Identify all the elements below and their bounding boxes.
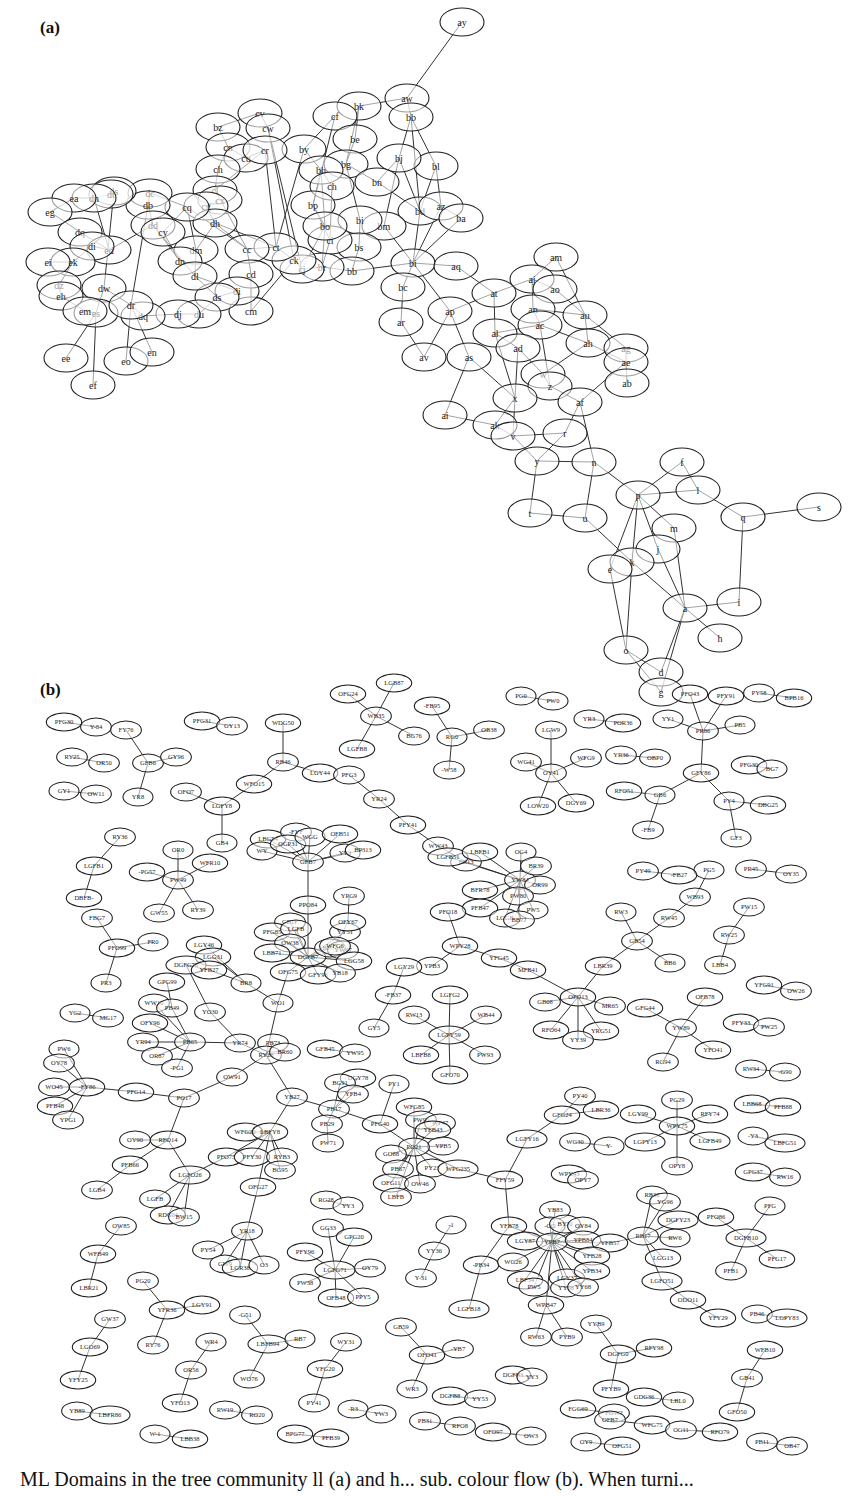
node-label: dj bbox=[174, 309, 182, 320]
graph-node: y bbox=[515, 447, 559, 475]
graph-node: PFG40 bbox=[362, 1115, 397, 1133]
graph-node: YW95 bbox=[340, 1044, 371, 1062]
node-label: y bbox=[535, 456, 540, 467]
node-label: PW49 bbox=[170, 876, 186, 883]
graph-node: PY41 bbox=[299, 1394, 330, 1412]
node-label: BPB16 bbox=[785, 694, 805, 701]
node-label: h bbox=[718, 633, 723, 644]
node-label: BG91 bbox=[332, 1079, 348, 1086]
graph-node: -FB9 bbox=[633, 821, 664, 839]
node-label: BG95 bbox=[272, 1166, 288, 1173]
graph-node: YFB4 bbox=[338, 1085, 369, 1103]
node-label: PR3 bbox=[100, 979, 111, 986]
node-label: PB11 bbox=[755, 1438, 769, 1445]
node-label: OPY8 bbox=[669, 1162, 685, 1169]
node-label: GG33 bbox=[320, 1224, 336, 1231]
node-label: WFO15 bbox=[244, 780, 265, 787]
node-label: PW25 bbox=[761, 1023, 777, 1030]
node-label: PFG31 bbox=[193, 717, 211, 724]
node-label: DGFG0 bbox=[608, 1350, 629, 1357]
node-label: LBFR86 bbox=[99, 1411, 123, 1418]
graph-node: LGFB bbox=[140, 1190, 171, 1208]
node-label: RFO64 bbox=[541, 1026, 561, 1033]
node-label: LGFB bbox=[147, 1195, 164, 1202]
graph-node: OFO97 bbox=[475, 1423, 510, 1441]
graph-node: WB93 bbox=[680, 888, 711, 906]
graph-node: WFB10 bbox=[747, 1341, 782, 1359]
node-label: YY3 bbox=[526, 1373, 539, 1380]
node-label: PFB66 bbox=[121, 1161, 140, 1168]
node-label: FGG69 bbox=[568, 1405, 588, 1412]
graph-node: OG11 bbox=[666, 1421, 697, 1439]
node-label: YFG91 bbox=[754, 981, 774, 988]
graph-node: p bbox=[616, 481, 660, 509]
node-label: PY49 bbox=[636, 867, 651, 874]
node-label: LOW20 bbox=[527, 802, 548, 809]
node-label: YFB57 bbox=[600, 1239, 620, 1246]
node-label: OW46 bbox=[411, 1180, 429, 1187]
node-label: LGPY59 bbox=[437, 1031, 460, 1038]
node-label: YR74 bbox=[232, 1039, 248, 1046]
graph-node: PG20 bbox=[128, 1272, 159, 1290]
graph-node: OPY7 bbox=[568, 1171, 599, 1189]
node-label: OFG75 bbox=[278, 968, 298, 975]
node-label: au bbox=[580, 310, 589, 321]
graph-node: PG0 bbox=[506, 687, 536, 705]
node-label: BG76 bbox=[406, 732, 422, 739]
node-label: RW25 bbox=[721, 931, 738, 938]
graph-node: PPY5 bbox=[348, 1288, 379, 1306]
graph-node: YYB9 bbox=[581, 1315, 612, 1333]
graph-node: o bbox=[604, 636, 648, 664]
graph-node: BW15 bbox=[169, 1208, 200, 1226]
node-label: WO45 bbox=[45, 1083, 62, 1090]
node-label: -FB37 bbox=[385, 991, 402, 998]
graph-node: ad bbox=[496, 334, 540, 362]
graph-node: LGW9 bbox=[536, 721, 567, 739]
graph-node: PY1 bbox=[379, 1075, 409, 1093]
graph-node: PG29 bbox=[662, 1091, 693, 1109]
node-label: LGO69 bbox=[80, 1343, 100, 1350]
graph-node: DGFG0 bbox=[600, 1345, 635, 1363]
node-label: PFB1 bbox=[724, 1267, 739, 1274]
graph-node: -PG57 bbox=[129, 863, 164, 881]
graph-node: -G51 bbox=[230, 1306, 261, 1324]
node-label: LBR21 bbox=[79, 1284, 98, 1291]
node-label: OY9 bbox=[580, 1438, 593, 1445]
graph-node: BG95 bbox=[265, 1161, 296, 1179]
node-label: YFB28 bbox=[582, 1252, 601, 1259]
node-label: DBFB- bbox=[74, 894, 93, 901]
graph-node: LBB4 bbox=[705, 956, 736, 974]
node-label: LGFO51 bbox=[650, 1277, 673, 1284]
node-label: YB18 bbox=[332, 969, 348, 976]
node-label: eh bbox=[56, 291, 65, 302]
graph-node: DBFB- bbox=[66, 889, 101, 907]
graph-node: RY39 bbox=[183, 901, 214, 919]
node-label: cd bbox=[246, 269, 255, 280]
node-label: OR56 bbox=[183, 1366, 199, 1373]
graph-node: LGFB1 bbox=[76, 857, 111, 875]
graph-node: -G90 bbox=[770, 1063, 801, 1081]
node-label: YY1 bbox=[662, 715, 675, 722]
graph-node: OBP0 bbox=[640, 749, 671, 767]
node-label: di bbox=[88, 241, 96, 252]
node-label: as bbox=[465, 352, 473, 363]
graph-node: PFB1 bbox=[716, 1262, 747, 1280]
node-label: ba bbox=[456, 213, 466, 224]
node-label: BB77 bbox=[511, 916, 527, 923]
node-label: WFG75 bbox=[642, 1421, 663, 1428]
node-label: a bbox=[683, 603, 688, 614]
node-label: PW0 bbox=[547, 697, 560, 704]
graph-node: BG7 bbox=[757, 760, 787, 778]
node-label: PPY5 bbox=[355, 1293, 370, 1300]
graph-node: LBB38 bbox=[172, 1430, 207, 1448]
node-label: WO1 bbox=[271, 999, 285, 1006]
graph-node: FR0 bbox=[138, 933, 168, 951]
graph-node: GFB7 bbox=[293, 853, 324, 871]
graph-node: OY9 bbox=[571, 1433, 601, 1451]
graph-node: as bbox=[447, 343, 491, 371]
node-label: PG20 bbox=[136, 1277, 151, 1284]
node-label: PFG bbox=[764, 1202, 776, 1209]
graph-node: u bbox=[563, 504, 607, 532]
node-label: t bbox=[529, 508, 532, 519]
graph-node: RFO14 bbox=[150, 1131, 185, 1149]
